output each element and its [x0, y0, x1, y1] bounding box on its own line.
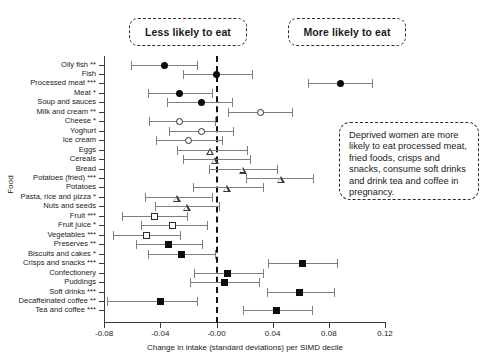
x-axis-tick [385, 323, 386, 328]
x-axis-tick-label: -0.04 [140, 329, 180, 338]
ci-lower-cap [246, 174, 247, 183]
ci-upper-cap [263, 269, 264, 278]
ci-upper-cap [197, 297, 198, 306]
forest-plot-row [0, 146, 497, 155]
data-point-marker [178, 251, 185, 258]
x-axis-tick [104, 323, 105, 328]
x-axis-tick-label: 0.04 [253, 329, 293, 338]
ci-lower-cap [194, 269, 195, 278]
data-point-marker [221, 279, 228, 286]
ci-upper-cap [202, 240, 203, 249]
ci-lower-cap [209, 165, 210, 174]
ci-upper-cap [187, 212, 188, 221]
forest-plot-row [0, 174, 497, 183]
ci-lower-cap [177, 146, 178, 155]
forest-plot-row [0, 155, 497, 164]
ci-lower-cap [183, 70, 184, 79]
ci-lower-cap [107, 297, 108, 306]
forest-plot-row [0, 221, 497, 230]
forest-plot-figure: Less likely to eat More likely to eat De… [0, 0, 497, 360]
forest-plot-row [0, 202, 497, 211]
data-point-marker [296, 289, 303, 296]
x-axis-tick [273, 323, 274, 328]
data-point-marker [277, 176, 285, 183]
forest-plot-row [0, 117, 497, 126]
data-point-marker [176, 118, 183, 125]
data-point-marker [223, 185, 231, 192]
ci-upper-cap [337, 259, 338, 268]
ci-lower-cap [113, 231, 114, 240]
x-axis-tick-label: -0.00 [197, 329, 237, 338]
data-point-marker [183, 204, 191, 211]
callout-more-likely: More likely to eat [288, 18, 406, 46]
data-point-marker [173, 195, 181, 202]
forest-plot-row [0, 240, 497, 249]
confidence-interval-bar [107, 301, 197, 302]
ci-upper-cap [259, 278, 260, 287]
forest-plot-row [0, 89, 497, 98]
data-point-marker [224, 270, 231, 277]
ci-lower-cap [131, 61, 132, 70]
x-axis-tick [217, 323, 218, 328]
data-point-marker [239, 167, 247, 174]
ci-lower-cap [141, 221, 142, 230]
callout-less-likely: Less likely to eat [129, 18, 247, 46]
ci-upper-cap [292, 108, 293, 117]
x-axis-title: Change in intake (standard deviations) p… [104, 343, 386, 352]
x-axis-tick-label: 0.12 [365, 329, 405, 338]
ci-lower-cap [228, 108, 229, 117]
data-point-marker [213, 71, 220, 78]
data-point-marker [161, 62, 168, 69]
y-axis-title: Food [6, 165, 15, 205]
callout-less-likely-label: Less likely to eat [145, 26, 231, 38]
ci-lower-cap [268, 259, 269, 268]
ci-lower-cap [183, 155, 184, 164]
data-point-marker [143, 232, 150, 239]
ci-upper-cap [263, 183, 264, 192]
forest-plot-row [0, 193, 497, 202]
ci-upper-cap [232, 98, 233, 107]
data-point-marker [169, 222, 176, 229]
ci-upper-cap [313, 174, 314, 183]
forest-plot-row [0, 306, 497, 315]
forest-plot-row [0, 297, 497, 306]
ci-lower-cap [122, 212, 123, 221]
ci-upper-cap [222, 136, 223, 145]
ci-lower-cap [156, 136, 157, 145]
forest-plot-row [0, 269, 497, 278]
ci-upper-cap [250, 155, 251, 164]
ci-lower-cap [155, 202, 156, 211]
data-point-marker [273, 307, 280, 314]
data-point-marker [257, 109, 264, 116]
x-axis-tick [160, 323, 161, 328]
ci-upper-cap [180, 231, 181, 240]
ci-lower-cap [149, 117, 150, 126]
x-axis-line [104, 322, 386, 323]
data-point-marker [151, 213, 158, 220]
data-point-marker [157, 298, 164, 305]
forest-plot-row [0, 231, 497, 240]
ci-upper-cap [334, 288, 335, 297]
ci-lower-cap [148, 89, 149, 98]
forest-plot-row [0, 165, 497, 174]
data-point-marker [176, 90, 183, 97]
ci-lower-cap [267, 288, 268, 297]
ci-upper-cap [277, 165, 278, 174]
ci-upper-cap [212, 89, 213, 98]
forest-plot-row [0, 108, 497, 117]
data-point-marker [299, 260, 306, 267]
ci-lower-cap [190, 278, 191, 287]
ci-upper-cap [372, 79, 373, 88]
ci-upper-cap [247, 146, 248, 155]
ci-lower-cap [145, 193, 146, 202]
x-axis-tick-label: 0.08 [309, 329, 349, 338]
ci-upper-cap [207, 221, 208, 230]
data-point-marker [165, 241, 172, 248]
ci-lower-cap [243, 306, 244, 315]
data-point-marker [211, 157, 219, 164]
data-point-marker [185, 137, 192, 144]
ci-upper-cap [215, 250, 216, 259]
ci-upper-cap [252, 70, 253, 79]
callout-more-likely-label: More likely to eat [304, 26, 391, 38]
forest-plot-row [0, 288, 497, 297]
